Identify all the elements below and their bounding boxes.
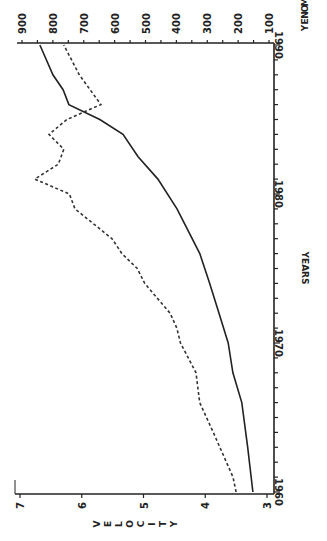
money-tick-label: 500 bbox=[141, 13, 152, 34]
velocity-title-letter: O bbox=[125, 520, 135, 528]
money-tick-label: 900 bbox=[17, 13, 28, 34]
velocity-title-letter: L bbox=[114, 521, 124, 527]
velocity-tick-label: 7 bbox=[15, 502, 26, 509]
velocity-title-letter: C bbox=[136, 520, 146, 527]
velocity-tick-label: 5 bbox=[139, 502, 150, 509]
year-tick-label: 1970 bbox=[273, 329, 284, 357]
money-title-letter: Y bbox=[300, 24, 310, 32]
year-tick-label: 1990 bbox=[273, 31, 284, 59]
velocity-tick-label: 3 bbox=[262, 502, 273, 509]
velocity-title-letter: V bbox=[92, 520, 102, 527]
money-tick-label: 300 bbox=[202, 13, 213, 34]
velocity-title-letter: Y bbox=[169, 520, 179, 528]
money-ticks: 900800700600500400300200100 bbox=[17, 13, 275, 43]
money-velocity-chart: 900800700600500400300200100 76543 196019… bbox=[0, 0, 327, 541]
velocity-tick-label: 4 bbox=[200, 502, 211, 509]
velocity-tick-label: 6 bbox=[77, 502, 88, 509]
velocity-title-letter: T bbox=[158, 520, 168, 527]
money-title-letter: N bbox=[300, 11, 310, 19]
money-tick-label: 700 bbox=[79, 13, 90, 34]
money-axis-title: MONEY bbox=[300, 0, 310, 32]
velocity-axis-title: VELOCITY bbox=[92, 520, 179, 528]
velocity-series-line bbox=[35, 45, 236, 492]
money-tick-label: 400 bbox=[171, 13, 182, 34]
velocity-title-letter: I bbox=[147, 522, 157, 525]
money-tick-label: 200 bbox=[233, 13, 244, 34]
year-tick-label: 1960 bbox=[273, 478, 284, 506]
velocity-title-letter: E bbox=[103, 521, 113, 527]
money-title-letter: E bbox=[300, 18, 310, 24]
velocity-ticks: 76543 bbox=[15, 494, 273, 509]
money-tick-label: 800 bbox=[48, 13, 59, 34]
money-series-line bbox=[40, 45, 253, 492]
money-tick-label: 600 bbox=[110, 13, 121, 34]
years-axis-title: YEARS bbox=[300, 250, 310, 284]
year-tick-label: 1980 bbox=[273, 180, 284, 208]
money-title-letter: O bbox=[300, 4, 310, 12]
